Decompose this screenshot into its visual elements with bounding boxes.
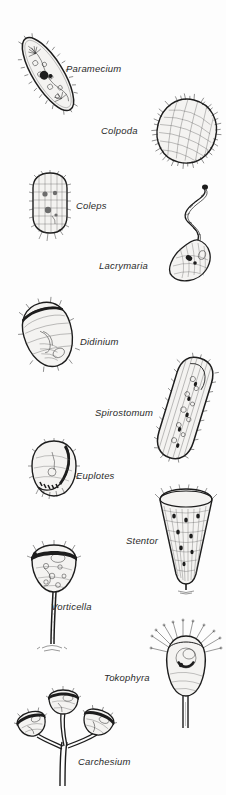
figure-spirostomum — [148, 352, 222, 464]
figure-paramecium — [16, 26, 80, 122]
label-colpoda: Colpoda — [101, 126, 138, 136]
label-tokophyra: Tokophyra — [104, 673, 150, 683]
figure-colpoda — [150, 95, 222, 169]
figure-lacrymaria — [148, 184, 222, 290]
label-paramecium: Paramecium — [66, 64, 121, 74]
illustration-plate: Paramecium Colpoda — [0, 0, 226, 795]
figure-euplotes — [26, 438, 82, 504]
label-spirostomum: Spirostomum — [95, 408, 153, 418]
figure-carchesium — [16, 690, 120, 790]
label-carchesium: Carchesium — [78, 757, 131, 767]
label-didinium: Didinium — [80, 337, 119, 347]
figure-didinium — [16, 297, 82, 377]
label-stentor: Stentor — [126, 536, 158, 546]
figure-stentor — [150, 486, 222, 596]
figure-vorticella — [24, 540, 84, 656]
label-vorticella: Vorticella — [51, 602, 92, 612]
figure-coleps — [26, 170, 74, 240]
figure-tokophyra — [150, 618, 222, 730]
label-lacrymaria: Lacrymaria — [99, 261, 148, 271]
label-euplotes: Euplotes — [76, 471, 115, 481]
label-coleps: Coleps — [76, 201, 107, 211]
